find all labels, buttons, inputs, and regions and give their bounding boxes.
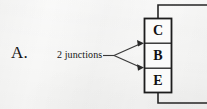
bottom-lead-wire bbox=[158, 93, 207, 103]
junction-annotation-label: 2 junctions bbox=[57, 50, 102, 60]
arrowhead-lower-junction bbox=[137, 64, 144, 71]
terminal-label-base: B bbox=[144, 49, 172, 63]
junction-leader-line bbox=[103, 40, 144, 71]
figure-item-label: A. bbox=[11, 44, 28, 61]
figure-panel: A. 2 junctions C B E bbox=[0, 0, 207, 109]
transistor-schematic-drawing bbox=[0, 0, 207, 109]
top-lead-wire bbox=[158, 5, 207, 18]
terminal-label-collector: C bbox=[144, 24, 172, 38]
leader-branch-lower bbox=[114, 56, 141, 68]
terminal-label-emitter: E bbox=[144, 74, 172, 88]
arrowhead-upper-junction bbox=[137, 40, 144, 47]
leader-branch-upper bbox=[114, 44, 141, 56]
